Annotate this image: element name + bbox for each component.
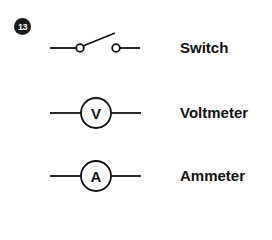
- voltmeter-glyph: V: [91, 105, 101, 122]
- ammeter-symbol: A: [50, 161, 141, 191]
- voltmeter-symbol: V: [50, 98, 141, 128]
- switch-label: Switch: [180, 39, 228, 56]
- ammeter-glyph: A: [91, 168, 102, 185]
- switch-symbol: [50, 33, 140, 52]
- ammeter-label: Ammeter: [180, 167, 245, 184]
- voltmeter-label: Voltmeter: [180, 104, 248, 121]
